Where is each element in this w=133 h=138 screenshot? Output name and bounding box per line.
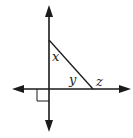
- left-arrow-icon: [12, 85, 24, 93]
- right-arrow-icon: [119, 85, 131, 93]
- geometry-figure: [0, 0, 133, 138]
- up-arrow-icon: [45, 5, 53, 17]
- angle-label-z: z: [96, 75, 103, 88]
- angle-label-x: x: [52, 50, 59, 63]
- angle-label-y: y: [69, 73, 76, 86]
- right-angle-marker: [37, 89, 49, 101]
- down-arrow-icon: [45, 120, 53, 132]
